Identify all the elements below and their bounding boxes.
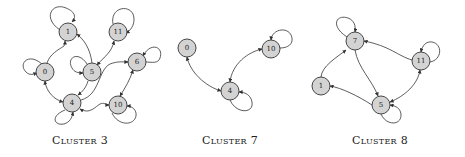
node-c3-10: 10 [109,96,127,114]
node-c7-10: 10 [262,40,280,58]
node-c8-5: 5 [372,96,390,114]
edge-c8-7-5 [355,50,378,96]
edge-c8-5-11 [390,70,420,102]
edge-c8-1-7 [321,50,346,77]
node-label: 10 [267,45,276,53]
edge-c3-5-11 [97,41,114,65]
edge-c8-11-7 [364,41,412,60]
node-c7-4: 4 [221,82,239,100]
edge-c3-5-1 [77,34,92,63]
node-label: 1 [319,82,323,90]
edge-c7-4-10 [230,49,262,82]
cluster-7-caption: Cluster 7 [180,134,280,147]
node-c3-0: 0 [36,63,54,81]
node-c3-1: 1 [59,23,77,41]
edge-c3-0-4 [45,81,63,102]
node-c3-5: 5 [83,63,101,81]
node-c7-0: 0 [178,39,196,57]
node-label: 4 [70,99,75,107]
cluster-7-graph: 0 10 4 [178,30,292,111]
node-c8-1: 1 [312,77,330,95]
node-c8-11: 11 [412,52,430,70]
edge-c3-5-4 [78,81,88,95]
edge-c8-5-1 [330,86,372,105]
node-label: 11 [114,28,123,36]
node-label: 0 [185,44,189,52]
node-label: 0 [43,68,47,76]
cluster-8-graph: 7 11 1 5 [312,17,440,123]
node-c8-7: 7 [346,32,364,50]
node-c3-11: 11 [109,23,127,41]
node-label: 11 [417,57,426,65]
edge-c3-0-1 [47,41,65,63]
edge-c7-0-4 [187,57,221,91]
node-label: 10 [114,101,123,109]
edge-c3-4-10 [80,103,109,111]
node-label: 5 [90,68,94,76]
node-label: 5 [379,101,383,109]
node-label: 7 [353,37,357,45]
cluster-8-caption: Cluster 8 [330,134,430,147]
node-label: 4 [228,87,233,95]
cluster-3-graph: 1 11 0 5 6 4 10 [23,7,161,125]
node-c3-4: 4 [63,94,81,112]
node-c3-6: 6 [128,53,146,71]
cluster-3-caption: Cluster 3 [30,134,130,147]
edge-c3-6-10 [120,70,133,96]
node-label: 1 [66,28,70,36]
node-label: 6 [135,58,140,66]
